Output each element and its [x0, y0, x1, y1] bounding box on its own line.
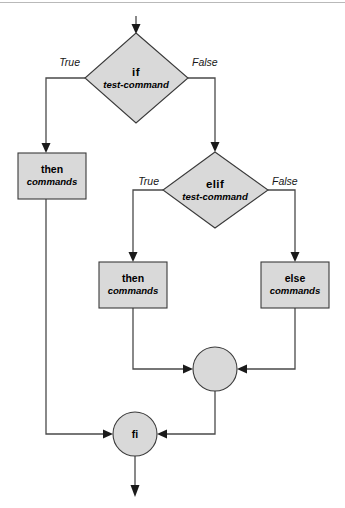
if-true-label: True	[59, 56, 80, 68]
flowchart-svg: if test-command True False then commands…	[0, 0, 345, 508]
arrow-into-fi-right	[157, 430, 167, 439]
then-outer-to-fi-line	[46, 199, 108, 434]
else-detail: commands	[270, 285, 321, 296]
then-inner-to-merge-line	[133, 308, 189, 369]
elif-true-branch-line	[133, 190, 163, 258]
arrow-into-merge-right	[237, 365, 247, 374]
elif-decision-diamond[interactable]	[163, 152, 268, 228]
if-keyword: if	[132, 66, 140, 78]
arrow-into-elif	[211, 142, 220, 152]
then-inner-keyword: then	[122, 272, 144, 284]
arrow-into-else	[291, 252, 300, 262]
if-false-label: False	[192, 56, 218, 68]
node-else[interactable]: else commands	[261, 262, 329, 308]
flowchart-canvas: if test-command True False then commands…	[0, 0, 345, 508]
node-then-inner[interactable]: then commands	[99, 262, 167, 308]
else-keyword: else	[285, 272, 306, 284]
node-then-outer[interactable]: then commands	[18, 153, 86, 199]
elif-keyword: elif	[206, 178, 224, 190]
arrow-into-then-inner	[129, 252, 138, 262]
elif-false-label: False	[272, 175, 298, 187]
if-detail: test-command	[103, 79, 170, 90]
arrow-into-merge-left	[183, 365, 193, 374]
if-decision-diamond[interactable]	[85, 33, 188, 123]
then-outer-detail: commands	[27, 176, 78, 187]
elif-false-branch-line	[268, 190, 295, 258]
node-elif-test[interactable]: elif test-command	[163, 152, 268, 228]
elif-detail: test-command	[182, 191, 249, 202]
elif-true-label: True	[138, 175, 159, 187]
node-if-test[interactable]: if test-command	[85, 33, 188, 123]
node-fi[interactable]: fi	[113, 412, 157, 456]
arrow-into-fi-left	[103, 430, 113, 439]
merge-to-fi-line	[162, 391, 215, 434]
merge-circle[interactable]	[193, 347, 237, 391]
else-to-merge-line	[241, 308, 295, 369]
if-false-branch-line	[188, 78, 215, 148]
fi-label: fi	[132, 428, 138, 440]
then-inner-detail: commands	[108, 285, 159, 296]
arrow-heads	[42, 24, 300, 497]
node-merge-inner[interactable]	[193, 347, 237, 391]
then-outer-keyword: then	[41, 163, 63, 175]
if-true-branch-line	[46, 78, 85, 149]
arrow-exit	[131, 485, 140, 497]
arrow-into-then-outer	[42, 143, 51, 153]
